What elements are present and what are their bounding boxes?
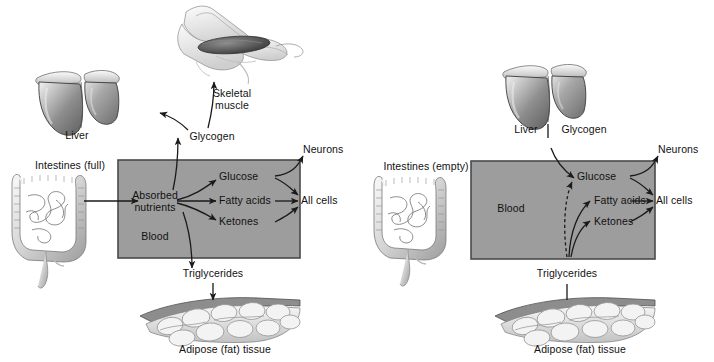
label-liver-right: Liver (514, 124, 537, 136)
label-neurons-right: Neurons (658, 144, 698, 156)
liver-illustration-right (503, 64, 586, 129)
label-ketones-right: Ketones (594, 216, 633, 228)
label-adipose-right: Adipose (fat) tissue (534, 344, 626, 356)
label-absorbed-nutrients-line1: Absorbed (132, 189, 178, 201)
intestines-empty-illustration (374, 176, 446, 286)
label-glucose-right: Glucose (577, 171, 616, 183)
label-neurons-left: Neurons (303, 144, 343, 156)
label-glycogen-left: Glycogen (189, 131, 234, 143)
label-absorbed-nutrients: Absorbed nutrients (126, 190, 184, 213)
intestines-full-illustration (12, 174, 86, 288)
diagram-canvas: Intestines (full) Liver Glycogen Skeleta… (0, 0, 714, 362)
label-fatty-acids-left: Fatty acids (219, 195, 271, 207)
label-blood-left: Blood (141, 231, 168, 243)
label-adipose-left: Adipose (fat) tissue (179, 344, 271, 356)
label-glucose-left: Glucose (219, 171, 258, 183)
liver-illustration (36, 70, 119, 135)
label-liver-left: Liver (65, 130, 88, 142)
label-triglycerides-right: Triglycerides (537, 268, 597, 280)
left-panel-group (12, 6, 303, 347)
arrow-glycogen-to-liver (160, 113, 188, 130)
label-skeletal-muscle-line2: muscle (215, 99, 249, 111)
label-ketones-left: Ketones (219, 216, 258, 228)
skeletal-muscle-illustration (178, 6, 303, 84)
label-all-cells-right: All cells (656, 195, 693, 207)
label-blood-right: Blood (497, 203, 524, 215)
adipose-tissue-illustration-left (140, 298, 300, 348)
label-skeletal-muscle-line1: Skeletal (213, 87, 251, 99)
label-skeletal-muscle: Skeletal muscle (206, 88, 258, 111)
label-intestines-empty: Intestines (empty) (383, 161, 468, 173)
label-intestines-full: Intestines (full) (35, 160, 105, 172)
label-fatty-acids-right: Fatty acids (594, 195, 646, 207)
adipose-tissue-illustration-right (495, 298, 655, 348)
label-all-cells-left: All cells (301, 195, 338, 207)
label-triglycerides-left: Triglycerides (183, 268, 243, 280)
label-absorbed-nutrients-line2: nutrients (134, 201, 175, 213)
label-glycogen-right: Glycogen (561, 124, 606, 136)
